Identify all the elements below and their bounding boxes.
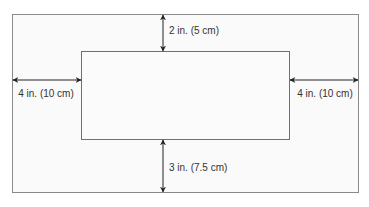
bottom-margin-label: 3 in. (7.5 cm) — [169, 162, 227, 173]
top-margin-label: 2 in. (5 cm) — [169, 25, 219, 36]
margin-diagram: 2 in. (5 cm) 4 in. (10 cm) 4 in. (10 cm)… — [0, 0, 369, 207]
inner-content-rect — [82, 52, 290, 140]
right-margin-label: 4 in. (10 cm) — [297, 88, 353, 99]
left-margin-label: 4 in. (10 cm) — [18, 88, 74, 99]
